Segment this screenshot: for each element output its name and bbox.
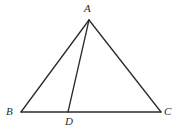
- vertex-label-c: C: [164, 106, 171, 117]
- vertex-label-b: B: [6, 106, 13, 117]
- geometry-figure: A B C D: [0, 0, 183, 130]
- vertex-label-a: A: [84, 3, 91, 14]
- triangle-diagram-svg: [0, 0, 183, 130]
- segment-AC: [89, 20, 161, 112]
- vertex-label-d: D: [65, 116, 73, 127]
